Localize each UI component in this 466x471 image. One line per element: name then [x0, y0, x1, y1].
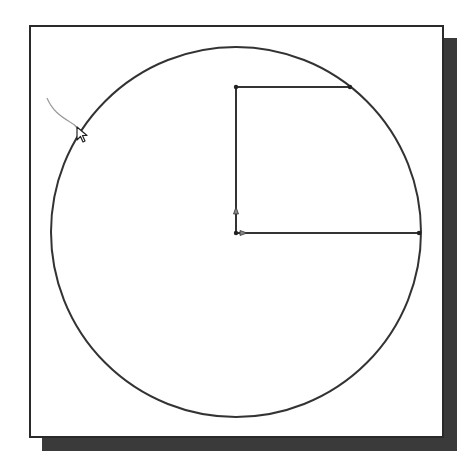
- horizontal-direction-arrow-icon: [240, 231, 247, 236]
- sketch-endpoints: [234, 85, 421, 235]
- endpoint-marker[interactable]: [417, 231, 421, 235]
- endpoint-marker[interactable]: [234, 231, 238, 235]
- vertical-direction-arrow-icon: [234, 207, 239, 214]
- endpoint-marker[interactable]: [348, 85, 352, 89]
- cursor-trail: [47, 98, 78, 129]
- sketch-canvas[interactable]: [0, 0, 466, 471]
- endpoint-marker[interactable]: [234, 85, 238, 89]
- profile-lines: [236, 87, 419, 233]
